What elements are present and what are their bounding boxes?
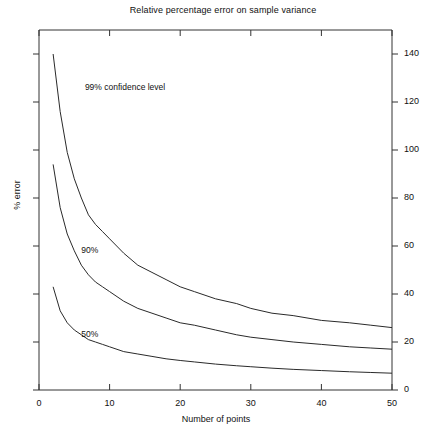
plot-area (0, 0, 446, 437)
y-tick-label: 20 (404, 336, 438, 346)
curve-label-1: 99% confidence level (85, 82, 165, 92)
y-tick-label: 120 (404, 96, 438, 106)
x-tick-label: 30 (236, 398, 266, 408)
curve-label-3: 50% (81, 329, 98, 339)
curve-label-2: 90% (81, 245, 98, 255)
chart-title: Relative percentage error on sample vari… (0, 5, 446, 15)
x-tick-label: 50 (377, 398, 407, 408)
y-tick-label: 40 (404, 288, 438, 298)
x-axis-label: Number of points (39, 414, 393, 424)
curve-1 (53, 54, 392, 328)
x-tick-label: 0 (24, 398, 54, 408)
y-axis-label: % error (12, 165, 22, 225)
chart-figure: Relative percentage error on sample vari… (0, 0, 446, 437)
curve-2 (53, 164, 392, 349)
y-tick-label: 60 (404, 240, 438, 250)
x-tick-label: 10 (95, 398, 125, 408)
y-tick-label: 100 (404, 144, 438, 154)
data-curves (53, 54, 392, 373)
x-tick-label: 20 (165, 398, 195, 408)
y-tick-label: 0 (404, 384, 438, 394)
y-tick-label: 140 (404, 48, 438, 58)
curve-3 (53, 287, 392, 373)
y-tick-label: 80 (404, 192, 438, 202)
x-tick-label: 40 (306, 398, 336, 408)
